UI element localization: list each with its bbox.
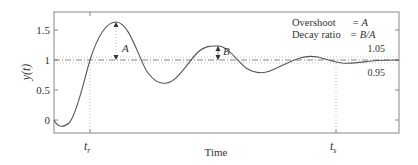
x-axis-label: Time — [205, 146, 228, 158]
band-low-label: 0.95 — [368, 67, 386, 78]
arrow-down-icon — [216, 55, 221, 60]
ytick-0: 0 — [45, 114, 51, 126]
y-ticks — [54, 12, 399, 133]
band-high-label: 1.05 — [368, 43, 386, 54]
ytick-1.5: 1.5 — [36, 24, 50, 36]
decay-ratio-eq: = B/A — [350, 29, 376, 40]
response-curve — [54, 22, 399, 126]
overshoot-eq: = A — [352, 17, 369, 28]
step-response-chart: A B 0 0.5 1 1.5 y(t) tr ts Time Overshoo… — [0, 0, 418, 165]
overshoot-label: Overshoot — [292, 17, 336, 28]
arrow-up-icon — [216, 46, 221, 51]
xtick-tr: tr — [84, 139, 91, 155]
label-B: B — [223, 45, 230, 57]
ytick-0.5: 0.5 — [36, 84, 50, 96]
ytick-1: 1 — [45, 54, 51, 66]
plot-frame — [54, 12, 399, 133]
y-axis-label: y(t) — [19, 64, 33, 82]
xtick-ts: ts — [330, 139, 336, 155]
label-A: A — [121, 42, 129, 54]
arrow-down-icon — [114, 55, 119, 60]
decay-ratio-label: Decay ratio — [292, 29, 341, 40]
